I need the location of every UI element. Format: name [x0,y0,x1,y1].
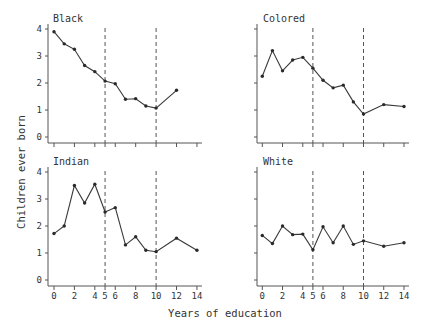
y-tick-label: 4 [37,24,42,34]
data-point [175,236,178,239]
panel-title: Indian [53,156,89,167]
data-point [124,243,127,246]
x-tick-label: 6 [113,291,118,301]
data-point [63,224,66,227]
data-point [331,86,334,89]
children-ever-born-chart: Children ever born Years of education Bl… [0,0,424,334]
data-point [103,79,106,82]
data-point [402,241,405,244]
x-tick-label: 10 [151,291,162,301]
panel-indian: Indian01234024568101214 [37,156,203,301]
data-point [321,79,324,82]
data-point [124,98,127,101]
y-tick-label: 2 [37,78,42,88]
x-tick-label: 5 [102,291,107,301]
data-point [134,97,137,100]
x-tick-label: 6 [320,291,325,301]
x-axis-title: Years of education [168,307,282,319]
y-tick-label: 1 [37,105,42,115]
data-point [154,250,157,253]
y-tick-label: 1 [37,248,42,258]
data-point [362,112,365,115]
data-point [73,184,76,187]
data-point [352,100,355,103]
x-tick-label: 14 [192,291,203,301]
panel-colored: Colored [254,13,409,147]
data-point [154,106,157,109]
data-point [93,70,96,73]
data-point [281,69,284,72]
data-point [134,235,137,238]
data-point [301,56,304,59]
y-tick-label: 3 [37,51,42,61]
data-point [83,64,86,67]
data-point [331,241,334,244]
data-point [261,234,264,237]
data-point [291,58,294,61]
data-point [93,182,96,185]
data-point [52,30,55,33]
data-point [271,242,274,245]
data-point [382,245,385,248]
data-point [382,103,385,106]
x-tick-label: 5 [310,291,315,301]
x-tick-label: 8 [133,291,138,301]
series-line [54,32,177,108]
panel-title: Colored [263,13,305,24]
data-point [321,225,324,228]
panel-white: White024568101214 [254,156,409,301]
panel-black: Black01234 [37,13,202,147]
y-tick-label: 2 [37,221,42,231]
series-line [54,184,197,252]
x-tick-label: 4 [92,291,97,301]
x-tick-label: 10 [358,291,369,301]
x-tick-label: 12 [171,291,182,301]
data-point [144,104,147,107]
data-point [114,82,117,85]
y-axis-title: Children ever born [15,115,27,229]
y-tick-label: 4 [37,167,42,177]
data-point [352,243,355,246]
data-point [195,249,198,252]
data-point [83,201,86,204]
y-tick-label: 0 [37,275,42,285]
x-tick-label: 14 [399,291,410,301]
y-tick-label: 0 [37,132,42,142]
data-point [175,89,178,92]
data-point [291,233,294,236]
data-point [73,48,76,51]
x-tick-label: 0 [260,291,265,301]
data-point [342,83,345,86]
panel-title: White [263,156,293,167]
x-tick-label: 0 [51,291,56,301]
data-point [362,239,365,242]
x-tick-label: 2 [72,291,77,301]
x-tick-label: 12 [378,291,389,301]
data-point [311,66,314,69]
x-tick-label: 4 [300,291,305,301]
data-point [301,232,304,235]
x-tick-label: 8 [341,291,346,301]
data-point [63,42,66,45]
data-point [103,210,106,213]
data-point [402,105,405,108]
panel-title: Black [53,13,83,24]
data-point [342,224,345,227]
data-point [281,224,284,227]
data-point [261,75,264,78]
data-point [114,206,117,209]
x-tick-label: 2 [280,291,285,301]
data-point [52,232,55,235]
y-tick-label: 3 [37,194,42,204]
data-point [271,49,274,52]
data-point [144,249,147,252]
data-point [311,248,314,251]
